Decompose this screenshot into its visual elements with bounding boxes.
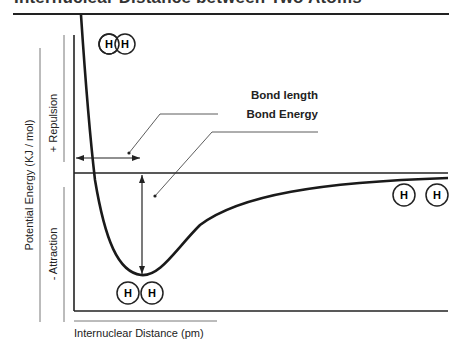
y-axis-label: Potential Energy (KJ / mol) [23,120,35,251]
bond-energy-leader [155,132,318,196]
arrowhead-left-icon [76,155,84,161]
svg-text:H: H [433,189,441,201]
hydrogen-pair-bonded: H H [117,282,163,304]
bond-length-label: Bond length [251,89,318,101]
svg-text:H: H [148,287,156,299]
repulsion-label: + Repulsion [47,94,59,152]
bond-length-leader [129,114,218,153]
attraction-label: - Attraction [47,228,59,281]
bond-energy-leader-dot [153,194,156,197]
svg-text:H: H [124,287,132,299]
x-axis-label: Internuclear Distance (pm) [74,327,204,339]
arrowhead-down-icon [139,266,145,274]
bond-energy-label: Bond Energy [246,108,318,120]
potential-energy-diagram: Bond length Bond Energy Potential Energy… [0,0,466,355]
svg-text:H: H [400,189,408,201]
hydrogen-pair-overlapping: H H [99,34,135,54]
hydrogen-pair-separated: H H [393,184,448,206]
svg-text:H: H [105,38,113,50]
svg-text:H: H [121,38,129,50]
potential-energy-curve [81,15,448,275]
arrowhead-up-icon [139,175,145,183]
bond-length-leader-dot [127,151,130,154]
arrowhead-right-icon [132,155,140,161]
